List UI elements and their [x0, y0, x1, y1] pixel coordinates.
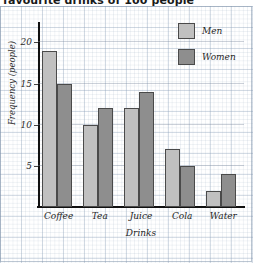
bar-juice-men[interactable] — [124, 108, 139, 207]
legend-label-women: Women — [202, 52, 236, 62]
x-tick-label-cola: Cola — [172, 211, 193, 221]
legend-item-women[interactable]: Women — [178, 48, 236, 65]
bar-tea-men[interactable] — [83, 125, 98, 207]
legend-swatch-men-icon — [178, 23, 195, 39]
y-tick-label-10: 10 — [21, 120, 32, 130]
x-tick-label-water: Water — [210, 211, 237, 221]
x-tick-label-juice: Juice — [130, 211, 153, 221]
x-tick-label-coffee: Coffee — [44, 211, 73, 221]
legend-label-men: Men — [202, 26, 222, 36]
bar-tea-women[interactable] — [98, 108, 113, 207]
bar-coffee-men[interactable] — [42, 51, 57, 207]
bar-juice-women[interactable] — [139, 92, 154, 207]
legend-item-men[interactable]: Men — [178, 22, 236, 39]
x-tick-label-tea: Tea — [92, 211, 108, 221]
bar-cola-women[interactable] — [180, 166, 195, 207]
x-axis-title: Drinks — [126, 228, 156, 238]
chart-title: favourite drinks of 100 people — [3, 0, 194, 7]
y-axis-title: Frequency (people) — [7, 13, 17, 153]
bar-coffee-women[interactable] — [57, 84, 72, 207]
y-tick-label-20: 20 — [21, 37, 32, 47]
bar-cola-men[interactable] — [165, 149, 180, 207]
legend-swatch-women-icon — [178, 49, 195, 65]
y-axis-tick-labels: 5101520 — [0, 26, 38, 207]
y-tick-label-5: 5 — [26, 161, 32, 171]
y-tick-label-15: 15 — [21, 79, 32, 89]
bar-water-men[interactable] — [206, 191, 221, 207]
bar-water-women[interactable] — [221, 174, 236, 207]
chart-legend: Men Women — [178, 22, 236, 74]
